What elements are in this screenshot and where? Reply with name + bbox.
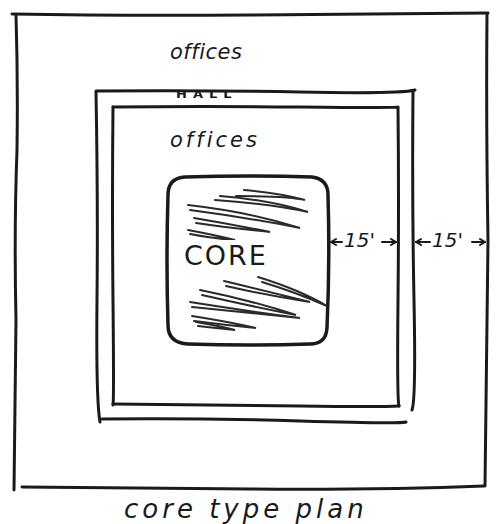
outer-offices-label: offices [170, 40, 242, 64]
inner-offices-label: offices [170, 128, 260, 152]
hall-label: HALL [176, 89, 238, 100]
dimension-label-inner: 15' [343, 228, 376, 252]
dimension-label-outer: 15' [431, 228, 464, 252]
core-label: CORE [181, 240, 271, 271]
caption: core type plan [124, 494, 368, 524]
